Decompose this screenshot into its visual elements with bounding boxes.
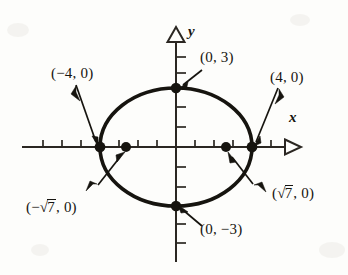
radical-left: √7 [40, 199, 56, 215]
label-bottom-vertex: (0, −3) [200, 222, 242, 237]
label-left-focus-open: (− [26, 199, 40, 215]
label-right-focus-close: , 0) [293, 185, 314, 201]
label-left-focus-close: , 0) [56, 199, 77, 215]
label-top-vertex: (0, 3) [200, 50, 234, 65]
ellipse-figure [0, 0, 348, 275]
radicand-right: 7 [285, 185, 294, 201]
radicand-left: 7 [47, 199, 56, 215]
y-axis-label: y [188, 24, 195, 39]
point-left-focus [121, 142, 131, 152]
x-axis-label: x [289, 110, 297, 125]
radical-right: √7 [277, 185, 293, 201]
label-left-focus: (−√7, 0) [26, 199, 77, 215]
point-right-focus [221, 142, 231, 152]
label-right-vertex: (4, 0) [270, 70, 304, 85]
label-left-vertex: (−4, 0) [51, 66, 93, 81]
label-right-focus: (√7, 0) [272, 185, 314, 201]
